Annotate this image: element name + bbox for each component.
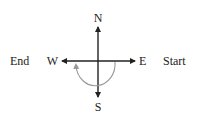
label-north: N: [94, 11, 103, 25]
rotation-arc: [76, 62, 115, 86]
label-south: S: [95, 100, 102, 114]
label-east: E: [139, 54, 146, 68]
label-start: Start: [163, 54, 186, 68]
compass-diagram: N S E W Start End: [0, 0, 198, 117]
label-end: End: [10, 54, 29, 68]
label-west: W: [47, 54, 59, 68]
